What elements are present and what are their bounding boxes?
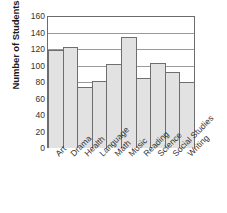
y-axis-tick-label: 120 [19, 45, 45, 54]
y-axis-tick-label: 160 [19, 12, 45, 21]
y-axis-tick-label: 80 [19, 78, 45, 87]
y-axis-tick-label: 100 [19, 62, 45, 71]
y-axis-tick-label: 40 [19, 111, 45, 120]
bar-chart: Number of Students 020406080100120140160… [0, 0, 227, 213]
x-axis-tick-labels: ArtDramaHealthLanguageMathMusicReadingSc… [0, 148, 227, 213]
bar [63, 47, 79, 148]
bar [48, 50, 64, 148]
y-axis-tick-label: 60 [19, 95, 45, 104]
y-axis-tick-label: 20 [19, 128, 45, 137]
y-axis-tick-label: 140 [19, 29, 45, 38]
